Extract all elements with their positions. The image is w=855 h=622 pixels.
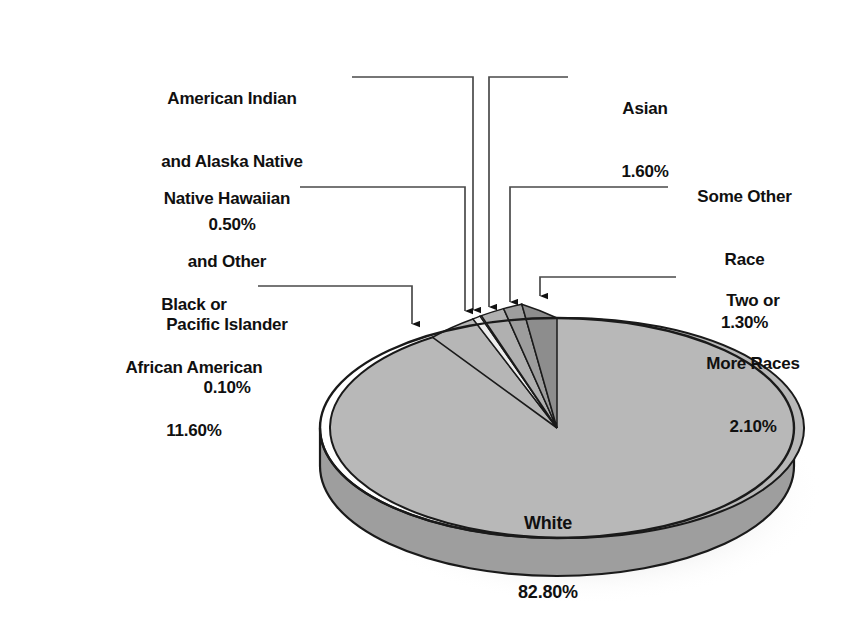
leader-two-or-more-races — [540, 277, 676, 296]
chart-canvas: American Indian and Alaska Native 0.50% … — [0, 0, 855, 622]
leader-asian — [489, 77, 568, 307]
leader-american-indian-alaska-native — [352, 77, 473, 310]
label-line-2: More Races — [678, 353, 828, 374]
label-line-1: Two or — [678, 290, 828, 311]
label-line-1: American Indian — [112, 88, 352, 109]
label-white: White 82.80% — [478, 466, 618, 622]
label-two-or-more-races: Two or More Races 2.10% — [678, 248, 828, 479]
label-line-1: White — [478, 512, 618, 535]
label-value: 2.10% — [678, 416, 828, 437]
label-line-1: Some Other — [672, 186, 817, 207]
label-line-1: Black or — [69, 294, 319, 315]
label-line-1: Native Hawaiian — [112, 188, 342, 209]
label-line-2: African American — [69, 357, 319, 378]
label-black-african-american: Black or African American 11.60% — [69, 252, 319, 483]
label-value: 82.80% — [478, 581, 618, 604]
label-line-1: Asian — [580, 98, 710, 119]
label-value: 11.60% — [69, 420, 319, 441]
